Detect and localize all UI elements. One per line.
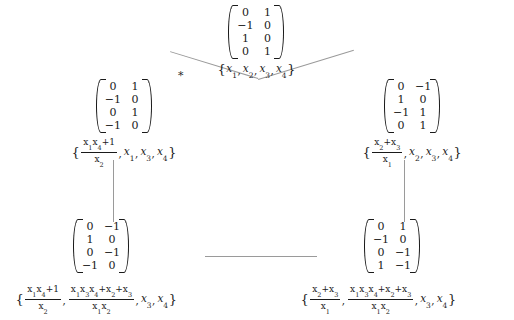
cluster-item: x2	[243, 63, 254, 77]
matrix-row: −1 0	[102, 119, 146, 132]
edge-right-to-bottom-right	[404, 160, 405, 222]
matrix-row: 0 1	[370, 220, 414, 233]
cluster-item: x4	[157, 293, 168, 307]
matrix-row: −1 0	[79, 259, 123, 272]
root-cluster-label: { x1, x2, x3, x4 }	[217, 63, 296, 77]
cluster-item-fraction: x2+x3 x1	[310, 284, 340, 316]
cluster-item-fraction: x1x4+1 x2	[81, 137, 117, 169]
cluster-item-fraction: x1x4+1 x2	[25, 284, 61, 316]
matrix-row: 0 1	[234, 45, 278, 58]
matrix-row: 0 1	[390, 119, 434, 132]
matrix-row: −1 1	[390, 106, 434, 119]
matrix-row: 1 −1	[370, 259, 414, 272]
mutation-diagram: * 0 1 −1 0 1 0 0 1	[0, 0, 514, 320]
matrix-row: −1 0	[370, 233, 414, 246]
matrix-row: 0 −1	[79, 220, 123, 233]
brace-close: }	[447, 293, 456, 306]
cluster-item: x3	[140, 146, 151, 160]
cluster-item: x4	[157, 146, 168, 160]
brace-open: {	[15, 293, 24, 306]
matrix-row: 0 1	[234, 6, 278, 19]
matrix-row: 1 0	[234, 32, 278, 45]
brace-close: }	[453, 146, 462, 159]
matrix-row: 0 −1	[390, 80, 434, 93]
right-cluster-label: { x2+x3 x1 , x2, x3, x4 }	[362, 137, 462, 169]
bottom-left-node: 0 −1 1 0 0 −1 −1 0	[71, 218, 131, 274]
paren-left-icon	[226, 4, 233, 60]
left-node: 0 1 −1 0 0 1 −1 0 { x1	[71, 78, 177, 169]
edge-bottom-left-to-bottom-right	[205, 256, 317, 257]
brace-close: }	[168, 293, 177, 306]
matrix-row: 0 1	[102, 106, 146, 119]
cluster-item: x4	[437, 293, 448, 307]
matrix-row: −1 0	[102, 93, 146, 106]
brace-close: }	[168, 146, 177, 159]
bottom-left-cluster-label: { x1x4+1 x2 , x1x3x4+x2+x3 x1x2 , x3, x4…	[15, 284, 177, 316]
left-matrix: 0 1 −1 0 0 1 −1 0	[94, 78, 154, 134]
paren-left-icon	[382, 78, 389, 134]
paren-left-icon	[362, 218, 369, 274]
paren-left-icon	[94, 78, 101, 134]
cluster-item: x3	[259, 63, 270, 77]
bottom-right-matrix: 0 1 −1 0 0 −1 1 −1	[362, 218, 422, 274]
root-matrix: 0 1 −1 0 1 0 0 1	[226, 4, 286, 60]
brace-open: {	[300, 293, 309, 306]
bottom-right-node: 0 1 −1 0 0 −1 1 −1	[362, 218, 422, 274]
cluster-item-fraction: x1x3x4+x2+x3 x1x2	[69, 284, 134, 316]
bottom-left-matrix: 0 −1 1 0 0 −1 −1 0	[71, 218, 131, 274]
matrix-row: 0 −1	[79, 246, 123, 259]
paren-right-icon	[279, 4, 286, 60]
brace-open: {	[217, 63, 226, 76]
root-node: 0 1 −1 0 1 0 0 1 { x1, x2	[217, 4, 296, 77]
paren-left-icon	[71, 218, 78, 274]
edge-star-label: *	[178, 70, 184, 81]
cluster-item: x3	[426, 146, 437, 160]
cluster-item: x3	[420, 293, 431, 307]
cluster-item: x4	[276, 63, 287, 77]
paren-right-icon	[415, 218, 422, 274]
paren-right-icon	[435, 78, 442, 134]
bottom-right-cluster-label: { x2+x3 x1 , x1x3x4+x2+x3 x1x2 , x3, x4 …	[300, 284, 457, 316]
brace-close: }	[287, 63, 296, 76]
paren-right-icon	[147, 78, 154, 134]
right-node: 0 −1 1 0 −1 1 0 1 { x2	[362, 78, 462, 169]
matrix-row: 1 0	[390, 93, 434, 106]
paren-right-icon	[124, 218, 131, 274]
matrix-row: 1 0	[79, 233, 123, 246]
matrix-row: −1 0	[234, 19, 278, 32]
matrix-row: 0 −1	[370, 246, 414, 259]
cluster-item: x1	[124, 146, 135, 160]
cluster-item: x3	[141, 293, 152, 307]
brace-open: {	[362, 146, 371, 159]
edge-left-to-bottom-left	[113, 160, 114, 222]
cluster-item: x2	[409, 146, 420, 160]
left-cluster-label: { x1x4+1 x2 , x1, x3, x4 }	[71, 137, 177, 169]
brace-open: {	[71, 146, 80, 159]
right-matrix: 0 −1 1 0 −1 1 0 1	[382, 78, 442, 134]
cluster-item: x1	[226, 63, 237, 77]
cluster-item-fraction: x1x3x4+x2+x3 x1x2	[348, 284, 413, 316]
matrix-row: 0 1	[102, 80, 146, 93]
cluster-item: x4	[442, 146, 453, 160]
cluster-item-fraction: x2+x3 x1	[372, 137, 402, 169]
